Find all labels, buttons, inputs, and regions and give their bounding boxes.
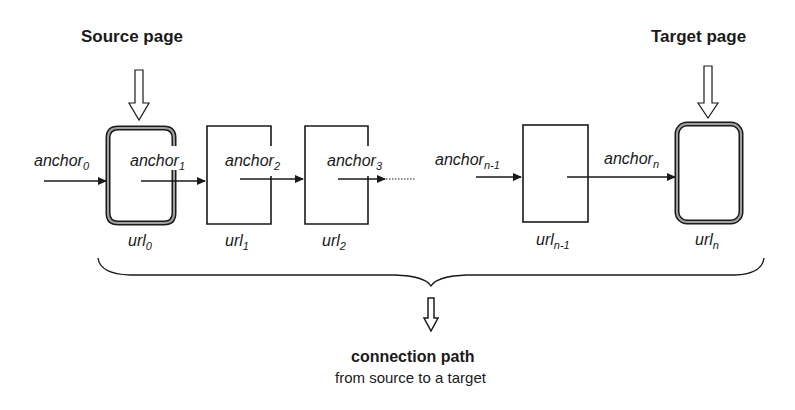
- source-page-label: Source page: [81, 27, 183, 47]
- anchor-label-1: anchor1: [130, 152, 185, 172]
- anchor-label-3: anchor3: [327, 152, 382, 172]
- url-label-n: urln: [695, 231, 719, 251]
- url-label-2: url2: [322, 232, 346, 252]
- anchor-label-2: anchor2: [225, 152, 280, 172]
- target-page-pointer-arrow: [698, 66, 718, 118]
- source-page-pointer-arrow: [129, 70, 149, 120]
- grouping-brace: [98, 258, 764, 286]
- target-page-label: Target page: [651, 27, 746, 47]
- page-box-url2: [305, 126, 368, 224]
- page-box-url-n-1: [523, 125, 588, 222]
- url-label-n-1: urln-1: [536, 231, 570, 251]
- anchor-label-n-1: anchorn-1: [435, 151, 500, 171]
- target-page-box: [677, 124, 741, 222]
- url-label-0: url0: [128, 232, 152, 252]
- url-label-1: url1: [225, 232, 249, 252]
- connection-path-arrow: [424, 298, 438, 331]
- connection-path-subtitle: from source to a target: [335, 369, 486, 386]
- source-page-box: [108, 128, 174, 223]
- connection-path-title: connection path: [351, 348, 475, 366]
- anchor-label-0: anchor0: [34, 152, 89, 172]
- page-box-url1: [207, 126, 271, 224]
- anchor-label-n: anchorn: [604, 150, 659, 170]
